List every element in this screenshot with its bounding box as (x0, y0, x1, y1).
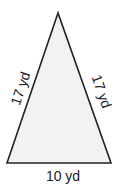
triangle-diagram: 17 yd 17 yd 10 yd (0, 0, 123, 193)
right-side-label: 17 yd (89, 73, 115, 111)
base-label: 10 yd (46, 168, 80, 184)
